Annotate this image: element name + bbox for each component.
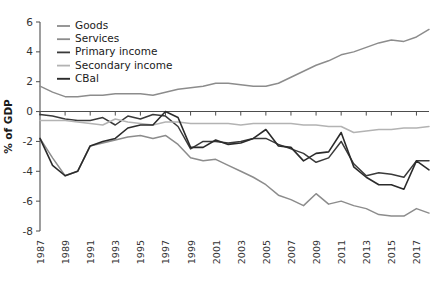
x-axis-tick-label: 2001 xyxy=(211,240,222,264)
series-line-cbal xyxy=(40,112,429,190)
y-axis-tick-label: -4 xyxy=(23,165,34,177)
x-axis-tick-label: 2011 xyxy=(336,240,347,264)
legend-label-secondary-income: Secondary income xyxy=(75,59,172,71)
x-axis-tick-label: 1991 xyxy=(85,240,96,264)
x-axis-tick-label: 2015 xyxy=(386,240,397,264)
y-axis-tick-label: -6 xyxy=(23,195,34,207)
y-axis-tick-label: 6 xyxy=(26,16,33,28)
y-axis-tick-label: 0 xyxy=(26,105,33,117)
x-axis-tick-label: 2003 xyxy=(236,240,247,264)
y-axis-tick-label: -8 xyxy=(23,225,33,237)
x-axis-tick-label: 2017 xyxy=(411,240,422,264)
legend-label-services: Services xyxy=(75,32,119,44)
line-chart: -8-6-4-202461987198919911993199519971999… xyxy=(0,0,441,282)
x-axis-tick-label: 1999 xyxy=(186,240,197,264)
x-axis-tick-label: 2013 xyxy=(361,240,372,264)
x-axis-tick-label: 2007 xyxy=(286,240,297,264)
x-axis-tick-label: 2005 xyxy=(261,240,272,264)
legend-label-primary-income: Primary income xyxy=(75,45,157,57)
x-axis-tick-label: 1987 xyxy=(35,240,46,264)
x-axis-tick-label: 1995 xyxy=(135,240,146,264)
x-axis-tick-label: 1997 xyxy=(160,240,171,264)
y-axis-tick-label: 2 xyxy=(26,75,33,87)
series-line-secondary-income xyxy=(40,119,429,132)
x-axis-tick-label: 1993 xyxy=(110,240,121,264)
legend-label-goods: Goods xyxy=(75,19,108,31)
y-axis-tick-label: 4 xyxy=(26,45,33,57)
y-axis-title: % of GDP xyxy=(2,99,14,154)
chart-container: -8-6-4-202461987198919911993199519971999… xyxy=(0,0,441,282)
series-line-goods xyxy=(40,135,429,216)
y-axis-tick-label: -2 xyxy=(23,135,33,147)
legend-label-cbal: CBal xyxy=(75,72,99,84)
x-axis-tick-label: 1989 xyxy=(60,240,71,264)
x-axis-tick-label: 2009 xyxy=(311,240,322,264)
